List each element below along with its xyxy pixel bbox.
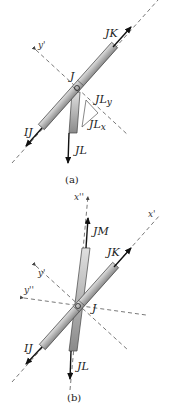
force-jl-arrow-icon — [68, 133, 69, 163]
caption-b: (b) — [67, 392, 81, 403]
jl-x-label: JLx — [87, 118, 106, 132]
diagram-b: x'' x' y' y'' J JM JK IJ JL (b) — [12, 192, 160, 403]
caption-a: (a) — [65, 174, 79, 185]
force-ij-label-b: IJ — [23, 342, 33, 355]
force-jm-arrow-icon — [86, 218, 88, 248]
force-jk-label-b: JK — [105, 246, 120, 259]
x-prime-label: x' — [148, 209, 156, 219]
y-prime-label-b: y' — [37, 268, 46, 278]
jl-y-label: JLy — [93, 93, 113, 107]
x-double-prime-label: x'' — [74, 192, 84, 202]
truss-joint-diagrams: y' J JK IJ JL JLy JLx (a) x'' x' — [0, 0, 169, 412]
force-jl-label: JL — [73, 144, 87, 157]
y-double-prime-label: y'' — [23, 285, 34, 295]
joint-label: J — [68, 70, 75, 83]
force-ij-label: IJ — [23, 126, 33, 139]
force-jk-label: JK — [103, 27, 118, 40]
y-prime-label: y' — [37, 40, 46, 50]
joint-label-b: J — [90, 302, 97, 315]
force-jl-arrow-icon-b — [70, 351, 71, 379]
diagram-a: y' J JK IJ JL JLy JLx (a) — [12, 0, 158, 185]
force-jl-label-b: JL — [75, 360, 89, 373]
force-jm-label: JM — [91, 225, 109, 238]
